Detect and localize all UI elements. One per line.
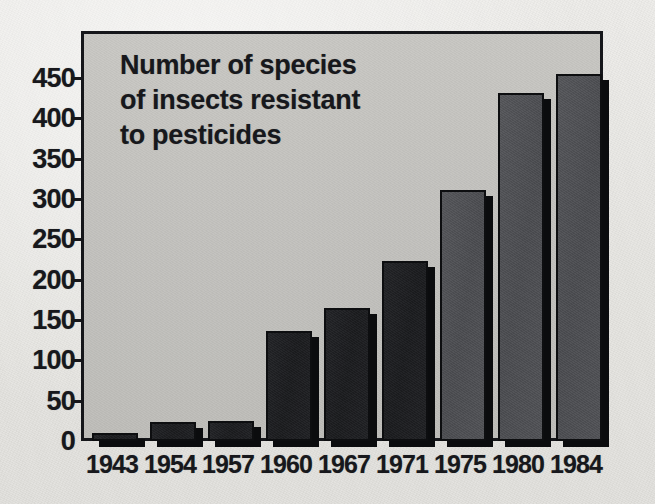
x-axis-label-1943: 1943 — [86, 452, 138, 477]
bar-1980 — [498, 93, 544, 441]
bar-body — [382, 261, 428, 441]
chart-page: 050100150200250300350400450 Number of sp… — [0, 0, 655, 504]
y-tick-label: 0 — [61, 428, 75, 455]
plot-area: 050100150200250300350400450 Number of sp… — [84, 34, 600, 438]
bar-1957 — [208, 421, 254, 441]
y-tick-label: 300 — [32, 186, 75, 213]
bar-1975 — [440, 190, 486, 441]
bar-1954 — [150, 422, 196, 441]
chart-title-line-3: to pesticides — [120, 118, 360, 153]
x-axis-label-1957: 1957 — [202, 452, 254, 477]
bar-1943 — [92, 433, 138, 441]
bar-body — [208, 421, 254, 441]
y-tick-label: 450 — [32, 65, 75, 92]
x-axis-label-1971: 1971 — [376, 452, 428, 477]
y-tick-label: 200 — [32, 266, 75, 293]
plot-frame: 050100150200250300350400450 Number of sp… — [81, 31, 603, 441]
chart-title-line-2: of insects resistant — [120, 83, 360, 118]
y-tick-label: 150 — [32, 307, 75, 334]
y-tick-label: 400 — [32, 105, 75, 132]
bar-body — [266, 331, 312, 441]
bar-body — [440, 190, 486, 441]
y-tick-label: 100 — [32, 347, 75, 374]
y-tick-label: 250 — [32, 226, 75, 253]
chart-title-line-1: Number of species — [120, 48, 360, 83]
bar-body — [150, 422, 196, 441]
x-axis-label-1975: 1975 — [434, 452, 486, 477]
x-axis-label-1980: 1980 — [492, 452, 544, 477]
bar-body — [92, 433, 138, 441]
bar-1967 — [324, 308, 370, 441]
y-tick-label: 350 — [32, 145, 75, 172]
x-axis-label-1960: 1960 — [260, 452, 312, 477]
bar-1960 — [266, 331, 312, 441]
x-axis-label-1967: 1967 — [318, 452, 370, 477]
x-axis-label-1984: 1984 — [550, 452, 602, 477]
bar-body — [556, 74, 602, 441]
bar-1984 — [556, 74, 602, 441]
bar-body — [324, 308, 370, 441]
y-tick-label: 50 — [47, 387, 75, 414]
x-axis-label-1954: 1954 — [144, 452, 196, 477]
bar-body — [498, 93, 544, 441]
bar-1971 — [382, 261, 428, 441]
chart-title: Number of species of insects resistant t… — [120, 48, 360, 153]
